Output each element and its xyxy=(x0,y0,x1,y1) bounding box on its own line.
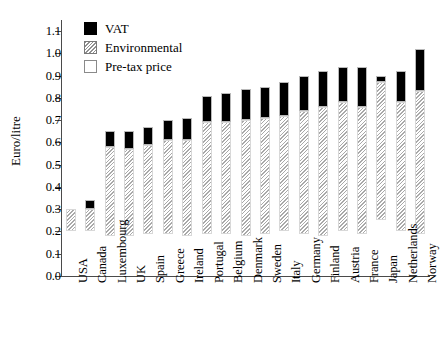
x-axis-label: Luxembourg xyxy=(115,220,130,283)
bar-column xyxy=(66,20,76,276)
bar-segment-environmental xyxy=(182,140,192,236)
bar-segment-environmental xyxy=(357,107,367,234)
y-tick-label-text: 0.2 xyxy=(33,225,61,237)
y-tick-label: 1.0 xyxy=(22,47,61,59)
y-tick-label-text: 0.8 xyxy=(33,92,61,104)
y-tick-label-text: 0.4 xyxy=(33,181,61,193)
bar-segment-environmental xyxy=(376,82,386,220)
bar-column xyxy=(338,20,348,276)
bar-segment-vat xyxy=(143,127,153,145)
x-axis-label: Norway xyxy=(425,243,440,283)
bar-column xyxy=(241,20,251,276)
y-tick-label: 0.0 xyxy=(22,270,61,282)
x-axis-label: Netherlands xyxy=(406,224,421,283)
y-tick-label-text: 0.9 xyxy=(33,70,61,82)
bar-segment-environmental xyxy=(415,91,425,233)
bar-segment-environmental xyxy=(143,145,153,234)
y-tick-label-text: 0.3 xyxy=(33,203,61,215)
y-tick-label-text: 1.1 xyxy=(33,25,61,37)
y-tick-label: 1.1 xyxy=(22,25,61,37)
chart-legend: VATEnvironmentalPre-tax price xyxy=(84,19,182,76)
x-axis-label: Finland xyxy=(328,246,343,284)
y-tick-label: 0.9 xyxy=(22,70,61,82)
y-tick-label-text: 0.0 xyxy=(33,270,61,282)
bar-column xyxy=(299,20,309,276)
bar-segment-environmental xyxy=(202,122,212,233)
bar-segment-environmental xyxy=(279,116,289,232)
x-axis-label: Austria xyxy=(348,247,363,283)
bar-segment-vat xyxy=(221,93,231,122)
bar-segment-environmental xyxy=(66,209,76,231)
legend-item: VAT xyxy=(84,19,182,38)
y-tick-label: 0.3 xyxy=(22,203,61,215)
bar-segment-vat xyxy=(279,82,289,115)
bar-segment-environmental xyxy=(85,209,95,231)
y-tick-label: 0.1 xyxy=(22,248,61,260)
x-axis-label: Germany xyxy=(309,237,324,283)
bar-segment-environmental xyxy=(260,118,270,234)
legend-item-label: Environmental xyxy=(105,41,182,54)
y-tick-label-text: 1.0 xyxy=(33,47,61,59)
x-axis-label: Portugal xyxy=(212,241,227,283)
y-tick-label-text: 0.1 xyxy=(33,248,61,260)
bar-segment-vat xyxy=(182,118,192,140)
legend-item: Pre-tax price xyxy=(84,57,182,76)
legend-item: Environmental xyxy=(84,38,182,57)
legend-item-label: Pre-tax price xyxy=(105,60,172,73)
x-axis-label: USA xyxy=(76,258,91,283)
legend-swatch-icon xyxy=(84,41,97,54)
y-tick-label: 0.5 xyxy=(22,159,61,171)
bar-segment-vat xyxy=(415,49,425,91)
y-tick-label-text: 0.5 xyxy=(33,159,61,171)
x-axis-label: Canada xyxy=(95,246,110,283)
bar-segment-vat xyxy=(124,131,134,149)
bar-segment-environmental xyxy=(318,107,328,236)
bar-column xyxy=(182,20,192,276)
bar-column xyxy=(279,20,289,276)
bar-segment-vat xyxy=(163,120,173,140)
y-tick-label-text: 0.7 xyxy=(33,114,61,126)
legend-item-label: VAT xyxy=(105,22,129,35)
bar-column xyxy=(357,20,367,276)
y-tick-label: 0.8 xyxy=(22,92,61,104)
y-tick-label-text: 0.6 xyxy=(33,136,61,148)
bar-segment-environmental xyxy=(163,140,173,233)
bar-segment-environmental xyxy=(299,111,309,233)
bar-segment-vat xyxy=(318,71,328,107)
x-axis-label: Belgium xyxy=(231,241,246,283)
bar-column xyxy=(376,20,386,276)
bar-column xyxy=(221,20,231,276)
bar-segment-vat xyxy=(357,67,367,107)
y-tick-label: 0.4 xyxy=(22,181,61,193)
bar-segment-vat xyxy=(241,89,251,120)
bar-segment-pretax xyxy=(66,231,76,276)
legend-swatch-icon xyxy=(84,22,97,35)
y-tick-label: 0.2 xyxy=(22,225,61,237)
bar-segment-environmental xyxy=(105,147,115,236)
bar-column xyxy=(396,20,406,276)
bar-segment-environmental xyxy=(338,102,348,231)
x-axis-label: Japan xyxy=(386,255,401,283)
x-axis-label: Italy xyxy=(289,261,304,283)
bar-segment-environmental xyxy=(221,122,231,233)
bar-segment-environmental xyxy=(396,102,406,231)
bar-segment-vat xyxy=(376,76,386,83)
bar-segment-vat xyxy=(202,96,212,123)
bar-segment-vat xyxy=(299,76,309,112)
x-axis-label: Denmark xyxy=(251,237,266,283)
bar-column xyxy=(202,20,212,276)
x-axis-label: Ireland xyxy=(192,248,207,283)
y-tick-label: 0.6 xyxy=(22,136,61,148)
x-axis-label: Spain xyxy=(153,255,168,283)
legend-swatch-icon xyxy=(84,60,97,73)
bar-segment-vat xyxy=(260,87,270,118)
bar-segment-vat xyxy=(85,200,95,209)
bar-segment-environmental xyxy=(241,120,251,236)
x-axis-label: UK xyxy=(134,265,149,283)
bar-segment-vat xyxy=(105,131,115,147)
y-tick-label: 0.7 xyxy=(22,114,61,126)
x-axis-label: Sweden xyxy=(270,244,285,283)
bar-segment-vat xyxy=(396,71,406,102)
x-axis-label: Greece xyxy=(173,248,188,283)
